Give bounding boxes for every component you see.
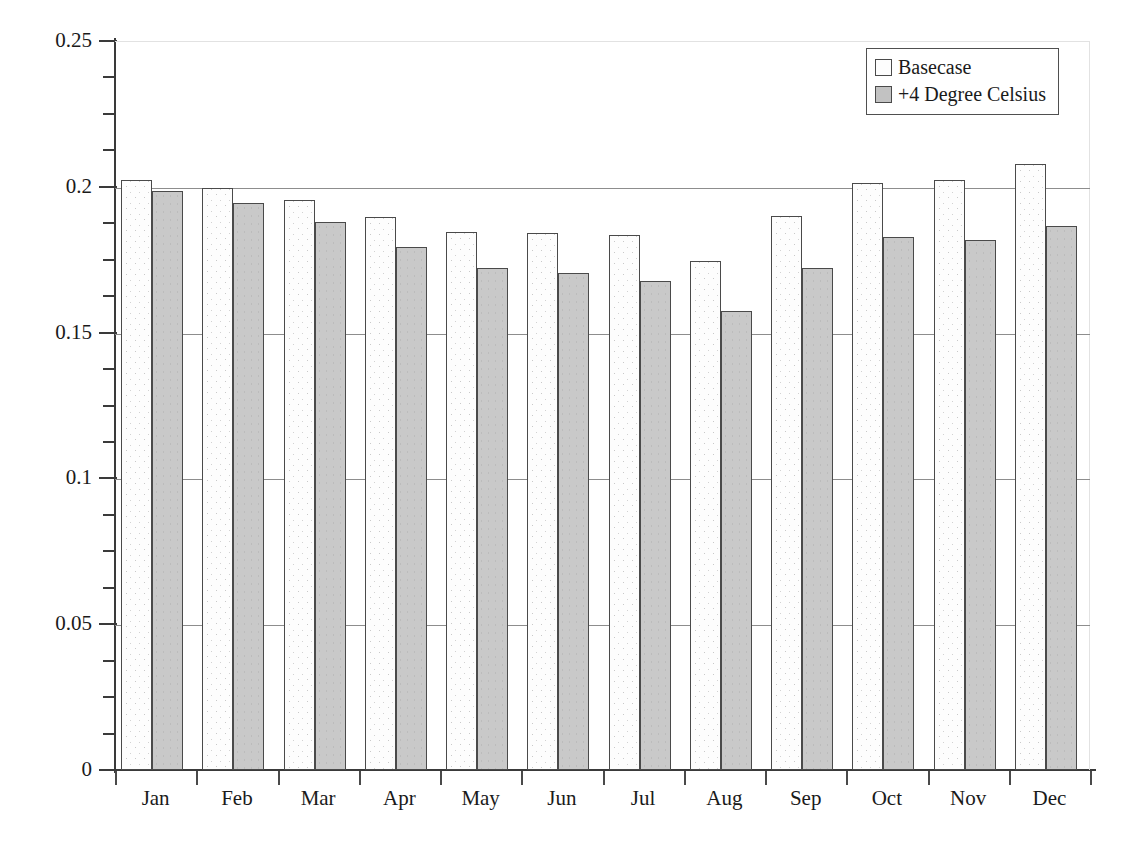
bar-warm: [558, 273, 589, 770]
bar-basecase: [934, 180, 965, 770]
bar-warm: [883, 237, 914, 770]
bar-group: [202, 41, 264, 770]
bar-basecase: [527, 233, 558, 770]
bar-warm: [721, 311, 752, 770]
legend-label: Basecase: [898, 56, 971, 79]
y-tick-label: 0.15: [0, 322, 92, 343]
bar-group: [121, 41, 183, 770]
x-tick: [196, 771, 198, 785]
x-tick: [928, 771, 930, 785]
bar-basecase: [365, 217, 396, 770]
bar-warm: [396, 247, 427, 770]
bar-group: [284, 41, 346, 770]
bar-basecase: [609, 235, 640, 770]
bar-group: [852, 41, 914, 770]
x-tick: [603, 771, 605, 785]
legend-label: +4 Degree Celsius: [898, 83, 1046, 106]
bar-basecase: [121, 180, 152, 770]
bar-basecase: [1015, 164, 1046, 770]
soil-moisture-bar-chart: Soil Moisture Content 00.050.10.150.20.2…: [0, 0, 1130, 846]
x-tick: [359, 771, 361, 785]
bar-warm: [640, 281, 671, 770]
plot-area: [115, 41, 1090, 770]
bar-warm: [315, 222, 346, 770]
y-tick-label: 0.25: [0, 30, 92, 51]
x-tick-label: Dec: [999, 788, 1099, 809]
bar-basecase: [690, 261, 721, 770]
bar-group: [771, 41, 833, 770]
x-tick: [1009, 771, 1011, 785]
bar-basecase: [202, 188, 233, 770]
x-tick: [765, 771, 767, 785]
x-tick: [440, 771, 442, 785]
bar-warm: [965, 240, 996, 770]
x-tick: [846, 771, 848, 785]
bar-basecase: [852, 183, 883, 770]
bar-group: [609, 41, 671, 770]
bar-warm: [152, 191, 183, 770]
x-tick: [278, 771, 280, 785]
figure-caption: [150, 824, 850, 842]
bar-group: [365, 41, 427, 770]
bar-basecase: [446, 232, 477, 770]
bar-group: [690, 41, 752, 770]
bar-group: [527, 41, 589, 770]
bar-group: [934, 41, 996, 770]
x-tick: [1090, 771, 1092, 785]
basecase-swatch: [875, 59, 892, 76]
bar-warm: [1046, 226, 1077, 770]
warm-swatch: [875, 86, 892, 103]
legend-item-warm: +4 Degree Celsius: [875, 81, 1046, 108]
x-tick: [115, 771, 117, 785]
y-tick-label: 0: [0, 759, 92, 780]
bar-basecase: [284, 200, 315, 770]
legend-item-basecase: Basecase: [875, 54, 1046, 81]
bar-warm: [477, 268, 508, 770]
bar-group: [446, 41, 508, 770]
bar-warm: [802, 268, 833, 770]
y-tick-label: 0.1: [0, 467, 92, 488]
y-tick-label: 0.2: [0, 176, 92, 197]
x-tick: [684, 771, 686, 785]
bar-group: [1015, 41, 1077, 770]
x-tick: [521, 771, 523, 785]
chart-legend: Basecase +4 Degree Celsius: [866, 48, 1059, 115]
bar-basecase: [771, 216, 802, 770]
bar-warm: [233, 203, 264, 770]
y-tick-label: 0.05: [0, 613, 92, 634]
